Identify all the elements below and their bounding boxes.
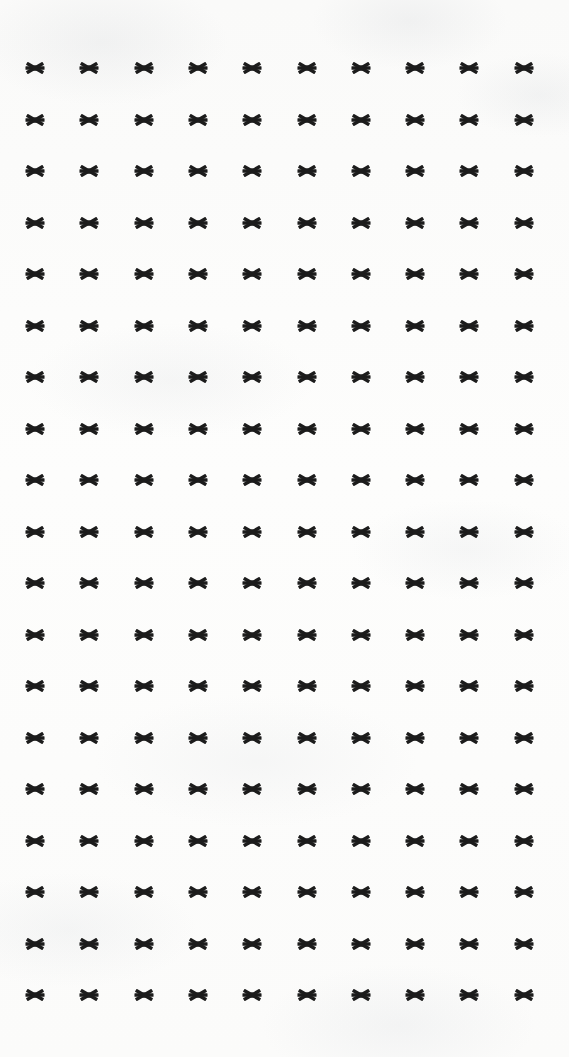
asterisk-glyph [296,57,318,79]
asterisk-glyph [187,366,209,388]
asterisk-glyph [296,469,318,491]
asterisk-glyph [78,469,100,491]
asterisk-glyph [404,366,426,388]
asterisk-glyph [133,521,155,543]
asterisk-glyph [133,881,155,903]
asterisk-glyph [350,212,372,234]
asterisk-glyph [78,212,100,234]
asterisk-glyph [404,881,426,903]
asterisk-glyph [24,881,46,903]
asterisk-glyph [404,418,426,440]
asterisk-glyph [24,57,46,79]
asterisk-glyph [404,315,426,337]
asterisk-glyph [24,418,46,440]
asterisk-glyph [187,57,209,79]
asterisk-glyph [241,933,263,955]
asterisk-glyph [350,366,372,388]
asterisk-glyph [404,572,426,594]
asterisk-glyph [78,984,100,1006]
asterisk-glyph [404,778,426,800]
asterisk-glyph [350,778,372,800]
asterisk-glyph [24,109,46,131]
asterisk-glyph [241,57,263,79]
asterisk-glyph [513,160,535,182]
asterisk-glyph [133,572,155,594]
asterisk-glyph [187,624,209,646]
asterisk-glyph [404,675,426,697]
asterisk-glyph [133,160,155,182]
asterisk-glyph [458,315,480,337]
asterisk-glyph [241,830,263,852]
asterisk-glyph [350,572,372,594]
asterisk-glyph [133,830,155,852]
asterisk-glyph [241,984,263,1006]
asterisk-glyph [24,366,46,388]
asterisk-glyph [187,984,209,1006]
asterisk-glyph [458,933,480,955]
asterisk-glyph [78,521,100,543]
asterisk-glyph [241,881,263,903]
asterisk-glyph [187,418,209,440]
asterisk-glyph [187,727,209,749]
asterisk-glyph [404,57,426,79]
asterisk-glyph [241,727,263,749]
asterisk-glyph [78,263,100,285]
asterisk-glyph [78,109,100,131]
asterisk-glyph [350,521,372,543]
asterisk-glyph [187,263,209,285]
asterisk-glyph [458,624,480,646]
asterisk-glyph [350,727,372,749]
asterisk-glyph [296,263,318,285]
asterisk-glyph [241,315,263,337]
asterisk-glyph [296,366,318,388]
asterisk-glyph [187,160,209,182]
asterisk-glyph [296,778,318,800]
asterisk-glyph [458,675,480,697]
asterisk-glyph [296,881,318,903]
asterisk-glyph [187,212,209,234]
asterisk-glyph [187,521,209,543]
asterisk-glyph [404,521,426,543]
asterisk-glyph [296,160,318,182]
asterisk-glyph [241,160,263,182]
asterisk-glyph [404,624,426,646]
asterisk-glyph [513,315,535,337]
asterisk-glyph [24,263,46,285]
asterisk-glyph [24,572,46,594]
asterisk-glyph [133,366,155,388]
asterisk-glyph [350,624,372,646]
asterisk-glyph [24,212,46,234]
asterisk-glyph [241,418,263,440]
asterisk-glyph [78,160,100,182]
asterisk-glyph [513,624,535,646]
asterisk-glyph [24,984,46,1006]
asterisk-glyph [513,572,535,594]
asterisk-glyph [133,57,155,79]
asterisk-glyph [78,675,100,697]
asterisk-glyph [458,572,480,594]
asterisk-glyph [133,675,155,697]
asterisk-glyph [133,984,155,1006]
asterisk-glyph [404,984,426,1006]
asterisk-glyph [458,366,480,388]
asterisk-glyph [296,212,318,234]
asterisk-glyph [296,315,318,337]
asterisk-glyph [513,675,535,697]
asterisk-glyph [296,109,318,131]
asterisk-glyph [404,830,426,852]
asterisk-grid [0,0,569,1057]
asterisk-glyph [296,727,318,749]
asterisk-glyph [296,572,318,594]
asterisk-glyph [24,675,46,697]
asterisk-glyph [458,212,480,234]
asterisk-glyph [78,418,100,440]
asterisk-glyph [458,263,480,285]
asterisk-glyph [350,933,372,955]
asterisk-glyph [24,830,46,852]
asterisk-glyph [404,212,426,234]
asterisk-glyph [241,263,263,285]
asterisk-glyph [350,160,372,182]
asterisk-glyph [78,727,100,749]
asterisk-glyph [78,57,100,79]
asterisk-glyph [78,366,100,388]
